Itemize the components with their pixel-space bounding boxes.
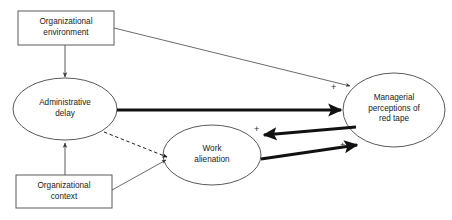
edge-delay-to-alienation bbox=[104, 132, 167, 157]
node-organizational-environment bbox=[18, 11, 114, 45]
edge-context-to-alienation bbox=[112, 160, 166, 190]
plus-sign-red-tape-alienation: + bbox=[254, 125, 259, 134]
edge-env-to-red-tape bbox=[114, 28, 350, 86]
plus-sign-env-red-tape: + bbox=[331, 83, 336, 92]
diagram-canvas bbox=[0, 0, 452, 220]
node-administrative-delay bbox=[13, 78, 117, 140]
node-organizational-context bbox=[16, 175, 112, 208]
node-work-alienation bbox=[163, 125, 261, 185]
edge-red-tape-to-alienation bbox=[264, 127, 356, 135]
plus-sign-alienation-red-tape: + bbox=[340, 141, 345, 150]
node-managerial-perceptions-of-red-tape bbox=[343, 73, 445, 147]
path-diagram: Organizational environment Administrativ… bbox=[0, 0, 452, 220]
